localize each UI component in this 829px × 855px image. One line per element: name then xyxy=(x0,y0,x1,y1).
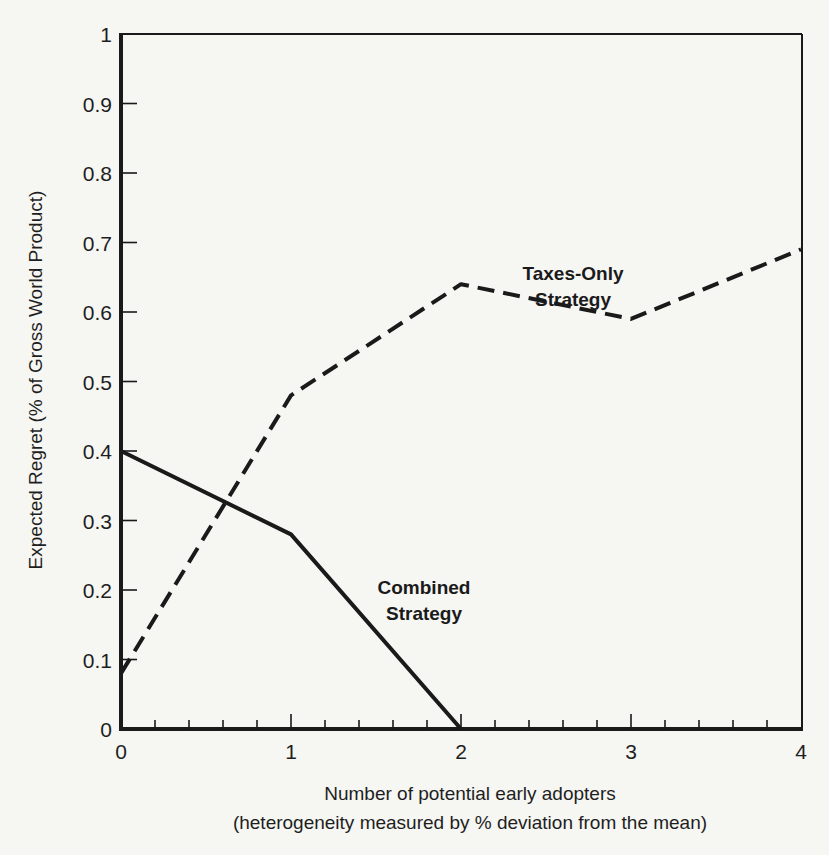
y-tick-label: 0.2 xyxy=(83,579,112,602)
y-axis-ticks: 00.10.20.30.40.50.60.70.80.91 xyxy=(83,23,137,741)
y-tick-label: 0.4 xyxy=(83,440,113,463)
combined-label-line2: Strategy xyxy=(386,603,462,624)
x-axis-title: Number of potential early adopters xyxy=(324,783,616,804)
chart: 00.10.20.30.40.50.60.70.80.91 01234 Taxe… xyxy=(0,0,829,855)
x-tick-label: 4 xyxy=(795,740,807,763)
y-axis-title: Expected Regret (% of Gross World Produc… xyxy=(25,191,46,570)
x-tick-label: 0 xyxy=(115,740,127,763)
x-tick-label: 3 xyxy=(625,740,637,763)
y-tick-label: 0 xyxy=(100,718,112,741)
y-tick-label: 0.7 xyxy=(83,232,112,255)
combined-label-line1: Combined xyxy=(378,577,471,598)
y-tick-label: 0.5 xyxy=(83,371,112,394)
x-tick-label: 2 xyxy=(455,740,467,763)
chart-canvas: 00.10.20.30.40.50.60.70.80.91 01234 Taxe… xyxy=(0,0,829,855)
x-axis-ticks: 01234 xyxy=(115,714,807,763)
taxes-only-label-line2: Strategy xyxy=(535,289,611,310)
y-tick-label: 0.3 xyxy=(83,510,112,533)
y-tick-label: 0.9 xyxy=(83,93,112,116)
y-tick-label: 1 xyxy=(100,23,112,46)
y-tick-label: 0.8 xyxy=(83,162,112,185)
x-axis-subtitle: (heterogeneity measured by % deviation f… xyxy=(233,812,707,833)
y-tick-label: 0.1 xyxy=(83,649,112,672)
series-lines xyxy=(121,249,801,729)
plot-frame xyxy=(119,33,803,731)
y-tick-label: 0.6 xyxy=(83,301,112,324)
taxes-only-label-line1: Taxes-Only xyxy=(522,263,623,284)
x-tick-label: 1 xyxy=(285,740,297,763)
